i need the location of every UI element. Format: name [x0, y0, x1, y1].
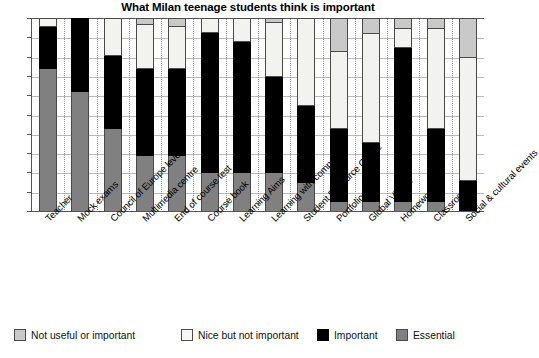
legend-label: Not useful or important [31, 330, 135, 341]
bar-segment-nice [265, 22, 283, 77]
bar-segment-nice [136, 24, 154, 69]
bar-segment-nice [394, 28, 412, 48]
bar-segment-notuseful [330, 18, 348, 52]
bar-segment-essential [71, 91, 89, 212]
gridline-vertical [161, 19, 162, 212]
gridline-vertical [226, 19, 227, 212]
y-axis-tick-mark [27, 37, 31, 38]
bar-segment-notuseful [427, 18, 445, 29]
legend-item[interactable]: Important [317, 329, 378, 341]
bar-segment-notuseful [265, 18, 283, 23]
y-axis-tick-mark [27, 211, 31, 212]
legend-swatch-icon [396, 329, 408, 341]
bar-segment-important [168, 68, 186, 156]
bar-segment-nice [330, 51, 348, 129]
bar-segment-notuseful [168, 18, 186, 27]
gridline-vertical [129, 19, 130, 212]
gridline-vertical [323, 19, 324, 212]
gridline-vertical [355, 19, 356, 212]
y-axis-tick-mark [27, 57, 31, 58]
bar-segment-important [71, 18, 89, 92]
bar-segment-notuseful [394, 18, 412, 29]
bar-segment-nice [459, 57, 477, 182]
bar-segment-nice [201, 18, 219, 33]
legend-swatch-icon [317, 329, 329, 341]
y-axis-tick-mark [27, 95, 31, 96]
legend-item[interactable]: Not useful or important [14, 329, 135, 341]
gridline-vertical [193, 19, 194, 212]
legend-label: Nice but not important [198, 330, 299, 341]
y-axis-tick-mark [27, 172, 31, 173]
chart-legend: Not useful or importantNice but not impo… [0, 329, 496, 349]
bar-stack [362, 19, 380, 212]
bar-segment-notuseful [459, 18, 477, 58]
y-axis-tick-mark [27, 153, 31, 154]
legend-item[interactable]: Nice but not important [181, 329, 299, 341]
bar-segment-important [39, 26, 57, 69]
gridline-vertical [387, 19, 388, 212]
legend-label: Important [334, 330, 378, 341]
bar-segment-nice [427, 28, 445, 129]
legend-swatch-icon [181, 329, 193, 341]
bar-segment-nice [168, 26, 186, 69]
gridline-vertical [452, 19, 453, 212]
bar-segment-essential [39, 68, 57, 212]
bar-stack [71, 19, 89, 212]
bar-segment-notuseful [136, 18, 154, 25]
bar-segment-nice [297, 18, 315, 106]
legend-label: Essential [413, 330, 455, 341]
gridline-vertical [64, 19, 65, 212]
chart-title: What Milan teenage students think is imp… [0, 1, 496, 13]
y-axis-tick-mark [27, 18, 31, 19]
y-axis-tick-mark [27, 134, 31, 135]
bar-stack [39, 19, 57, 212]
bar-stack [459, 19, 477, 212]
y-axis-tick-mark [27, 76, 31, 77]
plot-area [31, 18, 484, 212]
legend-swatch-icon [14, 329, 26, 341]
y-axis-tick-mark [27, 115, 31, 116]
gridline-vertical [419, 19, 420, 212]
bar-segment-important [136, 68, 154, 156]
gridline-vertical [290, 19, 291, 212]
legend-item[interactable]: Essential [396, 329, 455, 341]
bar-segment-important [104, 55, 122, 129]
bar-segment-nice [362, 33, 380, 142]
bar-segment-nice [39, 18, 57, 27]
bar-segment-important [201, 32, 219, 174]
gridline-vertical [258, 19, 259, 212]
y-axis-tick-mark [27, 192, 31, 193]
bar-segment-nice [104, 18, 122, 56]
bar-segment-important [233, 41, 251, 173]
bar-segment-important [265, 76, 283, 174]
gridline-vertical [97, 19, 98, 212]
bar-segment-notuseful [362, 18, 380, 34]
bar-segment-nice [233, 18, 251, 42]
